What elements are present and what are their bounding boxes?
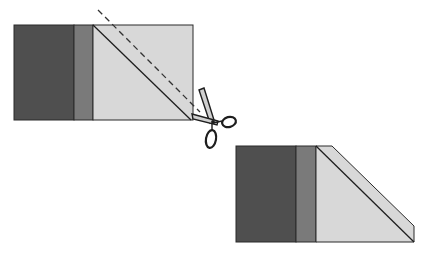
dark-strip: [14, 25, 74, 120]
scissors-icon: [192, 88, 237, 149]
medium-strip: [74, 25, 93, 120]
step1-pieced-rectangle: [14, 10, 200, 120]
medium-strip: [296, 146, 316, 242]
dark-strip: [236, 146, 296, 242]
quilt-cut-diagram: [0, 0, 430, 265]
step2-trimmed-unit: [236, 146, 414, 242]
